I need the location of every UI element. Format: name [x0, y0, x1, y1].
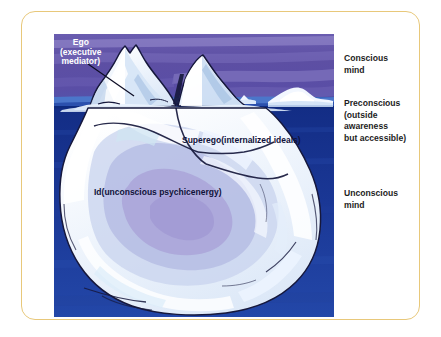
freud-iceberg-illustration — [54, 34, 334, 317]
side-label-unconscious-mind: Unconscious mind — [344, 188, 419, 211]
figure-frame: Ego(executivemediator) Superego(internal… — [21, 11, 420, 320]
iceberg-below-water — [60, 108, 321, 315]
iceberg-artwork — [54, 34, 334, 317]
side-label-conscious-mind: Conscious mind — [344, 53, 388, 76]
side-label-preconscious: Preconscious (outside awareness but acce… — [344, 98, 419, 144]
